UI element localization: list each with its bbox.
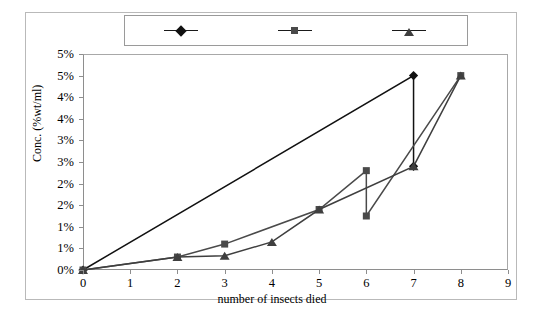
y-tick-mark <box>79 76 83 77</box>
y-tick-label: 1% <box>40 219 74 234</box>
triangle-marker-icon <box>404 28 414 36</box>
y-tick-label: 1% <box>40 241 74 256</box>
x-axis-title: number of insects died <box>0 292 544 307</box>
y-tick-mark <box>79 205 83 206</box>
data-point-square <box>221 241 228 248</box>
x-tick-mark <box>225 270 226 274</box>
x-tick-label: 7 <box>402 276 426 291</box>
y-tick-mark <box>79 227 83 228</box>
y-tick-label: 4% <box>40 111 74 126</box>
x-tick-label: 1 <box>118 276 142 291</box>
diamond-marker-icon <box>175 25 186 36</box>
y-tick-label: 2% <box>40 176 74 191</box>
y-tick-mark <box>79 162 83 163</box>
y-tick-mark <box>79 140 83 141</box>
legend-swatch <box>278 26 312 36</box>
data-point-diamond <box>409 71 418 80</box>
x-tick-label: 3 <box>213 276 237 291</box>
series-layer <box>83 54 508 270</box>
x-tick-mark <box>414 270 415 274</box>
data-point-square <box>363 213 370 220</box>
x-tick-label: 0 <box>71 276 95 291</box>
series-third-trial <box>78 72 466 274</box>
y-tick-label: 3% <box>40 155 74 170</box>
x-tick-label: 6 <box>354 276 378 291</box>
y-tick-label: 5% <box>40 68 74 83</box>
x-tick-label: 2 <box>165 276 189 291</box>
data-point-square <box>363 167 370 174</box>
x-tick-label: 5 <box>307 276 331 291</box>
x-tick-mark <box>508 270 509 274</box>
y-tick-mark <box>79 248 83 249</box>
legend-entry[interactable] <box>392 26 429 36</box>
y-axis-title: Conc. (%wt/ml) <box>30 85 45 162</box>
y-tick-label: 4% <box>40 90 74 105</box>
y-tick-mark <box>79 184 83 185</box>
x-tick-label: 9 <box>496 276 520 291</box>
x-tick-mark <box>272 270 273 274</box>
x-tick-mark <box>83 270 84 274</box>
x-tick-mark <box>319 270 320 274</box>
y-tick-mark <box>79 54 83 55</box>
y-tick-mark <box>79 97 83 98</box>
legend-entry[interactable] <box>164 26 201 36</box>
x-tick-mark <box>461 270 462 274</box>
legend-swatch <box>164 26 198 36</box>
x-tick-label: 8 <box>449 276 473 291</box>
y-tick-label: 3% <box>40 133 74 148</box>
y-tick-mark <box>79 119 83 120</box>
legend-entry[interactable] <box>278 26 315 36</box>
x-tick-mark <box>130 270 131 274</box>
square-marker-icon <box>291 27 298 34</box>
x-tick-mark <box>177 270 178 274</box>
y-tick-label: 0% <box>40 263 74 278</box>
chart-legend <box>124 15 468 46</box>
chart-figure: 0%1%1%2%2%3%3%4%4%5%5% 0123456789 Conc. … <box>0 0 544 322</box>
plot-area <box>83 54 508 270</box>
x-tick-mark <box>366 270 367 274</box>
y-tick-label: 2% <box>40 198 74 213</box>
x-tick-label: 4 <box>260 276 284 291</box>
legend-swatch <box>392 26 426 36</box>
y-tick-label: 5% <box>40 47 74 62</box>
